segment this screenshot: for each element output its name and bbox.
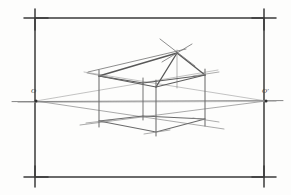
vanishing-point-label-left: O [31, 88, 36, 95]
apex-overshoot-left [88, 49, 186, 72]
bottom-edge-front-right [156, 119, 205, 132]
perspective-drawing-canvas [0, 0, 291, 195]
vp-right-dot [265, 100, 268, 103]
frame-corner-crosses [24, 9, 276, 187]
border-frame [35, 18, 264, 177]
tick-left-top [87, 73, 113, 78]
ray-to-left-vp-upper [36, 70, 218, 101]
convergence-rays [36, 70, 266, 129]
ray-to-right-vp-upper [84, 72, 266, 101]
ray-to-left-vp-lower [36, 101, 224, 129]
bottom-edge-rear-left [99, 116, 143, 121]
apex-construction-crossing [88, 39, 195, 72]
vp-left-dot [35, 100, 38, 103]
tick-right-top [193, 72, 219, 76]
top-edge-rear-right [143, 75, 205, 83]
bottom-edge-front-left [99, 121, 156, 132]
vanishing-point-right-marker [265, 93, 268, 110]
perspective-sketch-page: O O' [0, 0, 291, 195]
top-edge-rear-left [99, 76, 143, 83]
roof-edge-apex-to-right [177, 53, 205, 75]
vanishing-point-label-right: O' [262, 88, 269, 95]
horizon-line-group [12, 101, 283, 103]
